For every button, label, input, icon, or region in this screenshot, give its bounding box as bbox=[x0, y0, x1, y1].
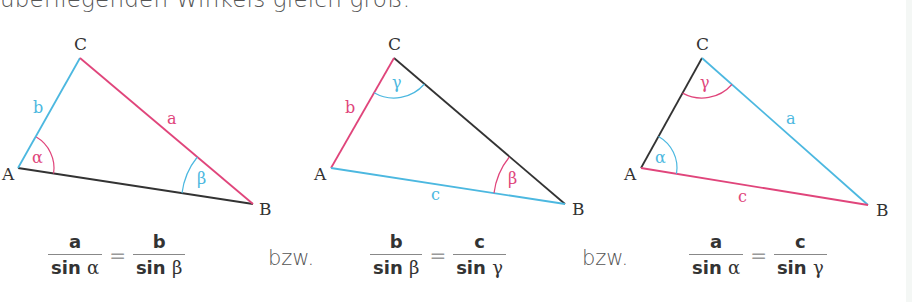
numerator: c bbox=[792, 232, 809, 252]
side-b-2 bbox=[331, 58, 394, 168]
equals-sign: = bbox=[750, 243, 767, 267]
vertex-label-b-1: B bbox=[259, 199, 272, 219]
fraction-right: b sin β bbox=[133, 232, 185, 278]
angle-label-alpha-1: α bbox=[32, 148, 43, 167]
vertex-label-c-1: C bbox=[74, 34, 87, 54]
angle-label-gamma-3: γ bbox=[700, 73, 710, 92]
separator-bzw-1: bzw. bbox=[268, 246, 314, 270]
law-of-sines-formula-1: a sin α = b sin β bbox=[48, 232, 185, 278]
angle-symbol: β bbox=[409, 257, 419, 278]
angle-label-beta-1: β bbox=[197, 169, 206, 188]
side-b-1 bbox=[18, 58, 80, 168]
angle-symbol: α bbox=[728, 257, 740, 278]
side-label-b-1: b bbox=[33, 98, 43, 117]
fraction-bar bbox=[48, 254, 102, 255]
vertex-label-b-3: B bbox=[876, 200, 889, 220]
angle-arc-beta-2 bbox=[494, 157, 509, 193]
sine-fn: sin bbox=[136, 257, 166, 278]
fraction-left: b sin β bbox=[370, 232, 422, 278]
angle-arc-beta-1 bbox=[182, 157, 197, 193]
vertex-label-c-3: C bbox=[696, 34, 709, 54]
numerator: a bbox=[707, 232, 725, 252]
denominator: sin β bbox=[370, 258, 422, 278]
page-edge-shade bbox=[906, 0, 912, 302]
side-b-3 bbox=[641, 58, 702, 168]
fraction-bar bbox=[689, 254, 743, 255]
sine-fn: sin bbox=[456, 257, 486, 278]
numerator: b bbox=[387, 232, 406, 252]
vertex-label-b-2: B bbox=[572, 199, 585, 219]
fraction-right: c sin γ bbox=[774, 232, 827, 278]
denominator: sin α bbox=[689, 258, 743, 278]
triangle-3: C A B a c γ α bbox=[623, 34, 889, 220]
side-label-c-3: c bbox=[738, 187, 747, 206]
equals-sign: = bbox=[429, 243, 446, 267]
triangle-2: C A B b c γ β bbox=[313, 34, 585, 219]
fraction-bar bbox=[133, 254, 185, 255]
side-a-3 bbox=[702, 58, 868, 205]
denominator: sin γ bbox=[774, 258, 827, 278]
numerator: b bbox=[150, 232, 169, 252]
fraction-bar bbox=[774, 254, 827, 255]
side-label-b-2: b bbox=[345, 98, 355, 117]
angle-symbol: γ bbox=[813, 257, 824, 278]
vertex-label-a-2: A bbox=[313, 164, 327, 184]
angle-symbol: γ bbox=[492, 257, 503, 278]
denominator: sin α bbox=[48, 258, 102, 278]
side-label-a-1: a bbox=[167, 109, 177, 128]
fraction-left: a sin α bbox=[689, 232, 743, 278]
sine-fn: sin bbox=[777, 257, 807, 278]
side-label-c-2: c bbox=[431, 185, 440, 204]
fraction-bar bbox=[453, 254, 506, 255]
angle-label-alpha-3: α bbox=[655, 148, 666, 167]
sine-fn: sin bbox=[692, 257, 722, 278]
vertex-label-a-1: A bbox=[1, 164, 15, 184]
sine-fn: sin bbox=[51, 257, 81, 278]
vertex-label-a-3: A bbox=[623, 164, 637, 184]
side-label-a-3: a bbox=[786, 109, 796, 128]
fraction-right: c sin γ bbox=[453, 232, 506, 278]
angle-label-beta-2: β bbox=[508, 169, 517, 188]
numerator: a bbox=[66, 232, 84, 252]
triangle-1: C A B b a α β bbox=[1, 34, 272, 219]
fraction-left: a sin α bbox=[48, 232, 102, 278]
numerator: c bbox=[471, 232, 488, 252]
fraction-bar bbox=[370, 254, 422, 255]
angle-symbol: β bbox=[172, 257, 182, 278]
angle-symbol: α bbox=[87, 257, 99, 278]
separator-bzw-2: bzw. bbox=[582, 246, 628, 270]
law-of-sines-formula-2: b sin β = c sin γ bbox=[370, 232, 506, 278]
equals-sign: = bbox=[109, 243, 126, 267]
vertex-label-c-2: C bbox=[388, 34, 401, 54]
sine-fn: sin bbox=[373, 257, 403, 278]
angle-label-gamma-2: γ bbox=[392, 73, 402, 92]
denominator: sin γ bbox=[453, 258, 506, 278]
law-of-sines-formula-3: a sin α = c sin γ bbox=[689, 232, 827, 278]
denominator: sin β bbox=[133, 258, 185, 278]
side-c-3 bbox=[641, 168, 868, 205]
